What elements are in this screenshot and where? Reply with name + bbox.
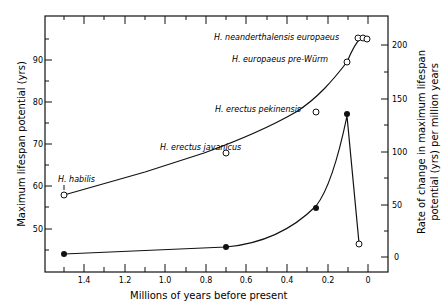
species-annotations: H. habilis H. erectus javanicus H. erect… [58,33,339,190]
left-axis-ticks [45,39,52,250]
svg-text:100: 100 [392,148,407,157]
x-tick-label: 1.0 [159,276,172,285]
x-axis-ticks [64,264,368,272]
right-axis-ticks [381,45,388,257]
svg-text:90: 90 [33,56,43,65]
lifespan-chart: 1.4 1.2 1.0 0.8 0.6 0.4 0.2 0 Millions o… [0,0,446,308]
left-tick-labels: 50 60 70 80 90 [33,56,43,234]
x-tick-labels: 1.4 1.2 1.0 0.8 0.6 0.4 0.2 0 [78,276,371,285]
right-axis-label: Rate of change in maximum lifespan poten… [416,50,440,234]
x-tick-label: 0.6 [240,276,253,285]
svg-text:80: 80 [33,98,43,107]
label-pekinensis: H. erectus pekinensis [215,105,301,114]
rate-curve [64,116,359,254]
svg-text:70: 70 [33,140,43,149]
label-prewurm: H. europaeus pre-Würm [232,55,328,64]
x-tick-label: 1.2 [119,276,132,285]
svg-text:150: 150 [392,95,407,104]
label-javanicus: H. erectus javanicus [160,143,241,152]
label-habilis: H. habilis [58,175,95,184]
x-tick-label: 0 [365,276,370,285]
top-axis-ticks [64,16,368,24]
x-tick-label: 1.4 [78,276,91,285]
x-tick-label: 0.2 [322,276,335,285]
svg-text:50: 50 [33,225,43,234]
svg-text:60: 60 [33,182,43,191]
rate-points [61,111,362,257]
x-tick-label: 0.4 [281,276,294,285]
x-axis-label: Millions of years before present [130,290,288,301]
svg-text:50: 50 [392,201,402,210]
svg-text:200: 200 [392,41,407,50]
right-tick-labels: 0 50 100 150 200 [392,41,407,262]
x-tick-label: 0.8 [200,276,213,285]
svg-text:0: 0 [394,253,399,262]
svg-text:potential (yrs) per million ye: potential (yrs) per million years [429,63,440,221]
label-neanderthalensis: H. neanderthalensis europaeus [214,33,339,42]
left-axis-label: Maximum lifespan potential (yrs) [16,61,27,227]
svg-text:Rate of change in maximum life: Rate of change in maximum lifespan [416,50,427,234]
